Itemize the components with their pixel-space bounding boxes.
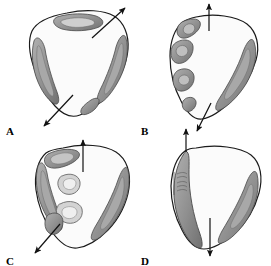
cross-section-illustration [0,0,271,266]
panel-label-c: C [6,256,14,266]
panel-label-a: A [6,126,14,137]
panel-c-inner-upper-nodule-core [63,179,76,190]
panel-label-d: D [141,256,149,266]
panel-a-superior-mass-core [61,18,95,28]
figure-canvas [0,0,271,266]
panel-c-inner-lower-nodule-core [62,207,77,219]
panel-label-b: B [141,126,149,137]
